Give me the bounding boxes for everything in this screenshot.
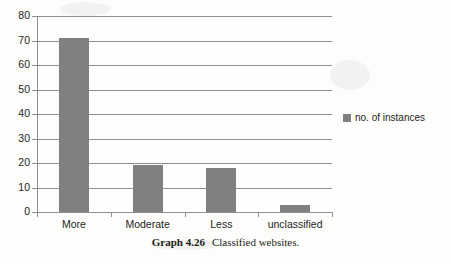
y-tick-70 bbox=[32, 41, 37, 42]
y-tick-0 bbox=[32, 212, 37, 213]
y-axis-tick-label: 0 bbox=[2, 206, 30, 217]
x-axis-category-label: Moderate bbox=[125, 219, 169, 231]
y-tick-20 bbox=[32, 163, 37, 164]
y-tick-60 bbox=[32, 65, 37, 66]
scan-smudge bbox=[60, 2, 110, 16]
legend-color-swatch bbox=[343, 114, 351, 122]
bar-slot bbox=[37, 16, 111, 212]
y-tick-10 bbox=[32, 188, 37, 189]
bar-more bbox=[59, 38, 89, 212]
y-axis-tick-label: 40 bbox=[2, 108, 30, 119]
x-tick bbox=[185, 212, 186, 217]
y-tick-50 bbox=[32, 90, 37, 91]
x-tick bbox=[332, 212, 333, 217]
bar-moderate bbox=[133, 165, 163, 212]
chart-page: 80706050403020100 MoreModerateLessunclas… bbox=[0, 0, 451, 264]
x-tick bbox=[111, 212, 112, 217]
caption-text: Classified websites. bbox=[212, 236, 299, 248]
x-axis-category-label: Less bbox=[210, 219, 232, 231]
y-axis-tick-label: 80 bbox=[2, 10, 30, 21]
y-axis-tick-label: 50 bbox=[2, 84, 30, 95]
bar-slot bbox=[111, 16, 185, 212]
bar-less bbox=[206, 168, 236, 212]
y-axis-labels: 80706050403020100 bbox=[0, 0, 30, 264]
y-axis-tick-label: 70 bbox=[2, 35, 30, 46]
plot-area bbox=[37, 16, 332, 212]
x-axis-category-label: unclassified bbox=[268, 219, 323, 231]
chart-legend: no. of instances bbox=[343, 113, 425, 123]
bar-slot bbox=[258, 16, 332, 212]
legend-item-label: no. of instances bbox=[355, 113, 425, 123]
y-axis-tick-label: 30 bbox=[2, 133, 30, 144]
bar-slot bbox=[185, 16, 259, 212]
y-axis-tick-label: 20 bbox=[2, 157, 30, 168]
x-tick bbox=[258, 212, 259, 217]
scan-smudge bbox=[330, 60, 370, 90]
y-axis-tick-label: 10 bbox=[2, 182, 30, 193]
y-axis-tick-label: 60 bbox=[2, 59, 30, 70]
bar-unclassified bbox=[280, 205, 310, 212]
y-tick-30 bbox=[32, 139, 37, 140]
figure-caption: Graph 4.26Classified websites. bbox=[0, 236, 451, 248]
x-axis-category-label: More bbox=[62, 219, 86, 231]
caption-number: Graph 4.26 bbox=[152, 236, 205, 248]
x-axis-labels: MoreModerateLessunclassified bbox=[37, 219, 332, 235]
y-tick-80 bbox=[32, 16, 37, 17]
y-tick-40 bbox=[32, 114, 37, 115]
x-tick bbox=[37, 212, 38, 217]
